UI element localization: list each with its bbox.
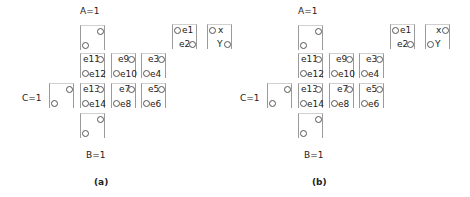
port-circle-icon [128,56,135,63]
port-circle-icon [113,100,120,107]
port-circle-icon [174,27,181,34]
e11-e12-box: e11 e12 [298,53,323,78]
port-circle-icon [442,27,449,34]
cell-label-e12: e12 [307,69,324,79]
port-circle-icon [284,86,291,93]
cell-label-e10: e10 [120,69,137,79]
e5-e6-box: e5 e6 [141,83,166,108]
port-circle-icon [97,116,104,123]
port-circle-icon [158,86,165,93]
e13-e14-box: e13 e14 [80,83,105,108]
x-y-box: x Y [425,24,450,49]
port-circle-icon [189,41,196,48]
port-circle-icon [315,28,322,35]
port-circle-icon [51,100,58,107]
cell-label-y: Y [435,39,441,49]
port-circle-icon [300,42,307,49]
port-circle-icon [427,41,434,48]
port-circle-icon [82,130,89,137]
label-c-equals-1: C=1 [22,93,42,103]
panel-a: A=1 e1 e2 x Y e11 e12 e9 e10 e3 e4 C=1 [0,0,235,197]
label-b-equals-1: B=1 [304,150,323,160]
port-circle-icon [128,86,135,93]
port-circle-icon [269,100,276,107]
cell-label-e14: e14 [89,99,106,109]
a-node-box [298,25,323,50]
port-circle-icon [300,70,307,77]
b-node-box [298,113,323,138]
port-circle-icon [82,42,89,49]
port-circle-icon [315,86,322,93]
cell-label-e12: e12 [89,69,106,79]
port-circle-icon [361,100,368,107]
port-circle-icon [392,27,399,34]
port-circle-icon [209,27,216,34]
cell-label-e1: e1 [182,25,193,35]
e3-e4-box: e3 e4 [141,53,166,78]
e1-e2-box: e1 e2 [390,24,415,49]
e5-e6-box: e5 e6 [359,83,384,108]
cell-label-x: x [436,25,441,35]
e7-e8-box: e7 e8 [329,83,354,108]
port-circle-icon [158,56,165,63]
cell-label-e10: e10 [338,69,355,79]
port-circle-icon [346,86,353,93]
cell-label-e14: e14 [307,99,324,109]
e13-e14-box: e13 e14 [298,83,323,108]
c-node-box [49,83,74,108]
e11-e12-box: e11 e12 [80,53,105,78]
panel-caption: (a) [94,177,108,187]
cell-label-e8: e8 [120,99,131,109]
label-c-equals-1: C=1 [240,93,260,103]
label-a-equals-1: A=1 [80,6,99,16]
a-node-box [80,25,105,50]
port-circle-icon [97,86,104,93]
panel-caption: (b) [312,177,327,187]
port-circle-icon [331,100,338,107]
cell-label-e6: e6 [368,99,379,109]
port-circle-icon [315,116,322,123]
port-circle-icon [376,56,383,63]
port-circle-icon [66,86,73,93]
cell-label-e6: e6 [150,99,161,109]
label-b-equals-1: B=1 [86,150,105,160]
panel-b: A=1 e1 e2 x Y e11 e12 e9 e10 e3 e4 C=1 [218,0,453,197]
port-circle-icon [82,100,89,107]
cell-label-e8: e8 [338,99,349,109]
port-circle-icon [113,70,120,77]
port-circle-icon [376,86,383,93]
port-circle-icon [315,56,322,63]
e3-e4-box: e3 e4 [359,53,384,78]
port-circle-icon [82,70,89,77]
e9-e10-box: e9 e10 [111,53,136,78]
port-circle-icon [361,70,368,77]
label-a-equals-1: A=1 [298,6,317,16]
port-circle-icon [407,41,414,48]
e7-e8-box: e7 e8 [111,83,136,108]
cell-label-e1: e1 [400,25,411,35]
port-circle-icon [300,130,307,137]
b-node-box [80,113,105,138]
port-circle-icon [97,56,104,63]
e9-e10-box: e9 e10 [329,53,354,78]
port-circle-icon [143,70,150,77]
port-circle-icon [300,100,307,107]
e1-e2-box: e1 e2 [172,24,197,49]
cell-label-e4: e4 [150,69,161,79]
c-node-box [267,83,292,108]
port-circle-icon [97,28,104,35]
port-circle-icon [346,56,353,63]
port-circle-icon [331,70,338,77]
cell-label-e4: e4 [368,69,379,79]
port-circle-icon [143,100,150,107]
